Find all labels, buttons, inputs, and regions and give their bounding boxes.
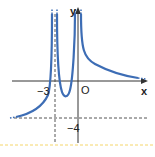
curve-left-branch [16, 14, 52, 117]
y-tick-label: −4 [67, 122, 80, 134]
right-tail-continuation [138, 78, 146, 79]
y-axis-label: y [70, 5, 77, 17]
curve-right-branch [81, 14, 138, 78]
function-graph: −3 O x y −4 [0, 0, 155, 157]
origin-label: O [81, 84, 90, 96]
x-axis-label: x [141, 85, 148, 97]
curve-middle-branch [57, 14, 75, 96]
x-tick-label: −3 [37, 85, 50, 97]
